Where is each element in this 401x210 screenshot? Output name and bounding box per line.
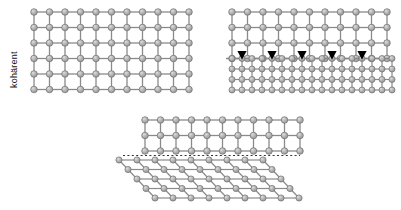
- panel-incoherent: inkohärent: [70, 108, 340, 210]
- lattice-coherent: [28, 6, 200, 106]
- panel-coherent: kohärent: [0, 0, 200, 110]
- lattice-incoherent: [115, 112, 335, 210]
- panel-semicoherent: teilkohärent: [200, 0, 401, 110]
- lattice-semicoherent: [226, 6, 401, 106]
- panel-label-coherent: kohärent: [10, 26, 19, 88]
